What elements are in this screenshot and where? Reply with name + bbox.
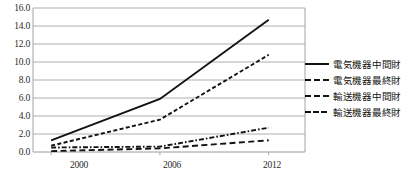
legend-item-3: 輸送機器最終財 — [305, 104, 417, 120]
legend-line-dash-dot-icon — [305, 91, 329, 101]
legend-label-2: 輸送機器中間財 — [333, 91, 401, 102]
legend-label-0: 電気機器中間財 — [333, 59, 401, 70]
legend-label-3: 輸送機器最終財 — [333, 107, 401, 118]
gridlines — [33, 8, 305, 152]
legend-label-1: 電気機器最終財 — [333, 75, 401, 86]
legend-line-long-dash-icon — [305, 107, 329, 117]
line-chart: 16.0 14.0 12.0 10.0 8.0 6.0 4.0 2.0 0.0 … — [0, 0, 417, 177]
legend: 電気機器中間財 電気機器最終財 輸送機器中間財 輸送機器最終財 — [305, 56, 417, 120]
series-line-1 — [51, 55, 269, 146]
legend-item-1: 電気機器最終財 — [305, 72, 417, 88]
legend-item-0: 電気機器中間財 — [305, 56, 417, 72]
legend-line-solid-icon — [305, 59, 329, 69]
legend-line-short-dash-icon — [305, 75, 329, 85]
legend-item-2: 輸送機器中間財 — [305, 88, 417, 104]
series-lines — [51, 20, 269, 151]
